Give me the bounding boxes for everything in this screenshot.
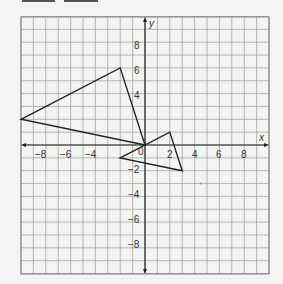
y-tick-p8: 8 [134, 40, 140, 51]
y-tick-p6: 6 [134, 65, 140, 76]
x-tick-p2: 2 [167, 149, 173, 160]
x-tick-m8: −8 [35, 149, 47, 160]
y-tick-p4: 4 [134, 90, 140, 101]
x-tick-m6: −6 [60, 149, 72, 160]
y-tick-m8: −8 [128, 239, 140, 250]
x-tick-p6: 6 [216, 149, 222, 160]
x-tick-p8: 8 [241, 149, 247, 160]
stray-dot [200, 183, 202, 185]
coordinate-plane: x y 0 −8 −6 −4 2 4 6 8 8 6 4 −2 −4 −6 −8 [0, 0, 283, 284]
x-axis-label: x [258, 132, 265, 143]
x-tick-m4: −4 [85, 149, 97, 160]
y-tick-m2: −2 [128, 164, 140, 175]
y-tick-m6: −6 [128, 214, 140, 225]
x-tick-p4: 4 [192, 149, 198, 160]
y-axis-label: y [148, 18, 155, 29]
y-tick-m4: −4 [128, 189, 140, 200]
